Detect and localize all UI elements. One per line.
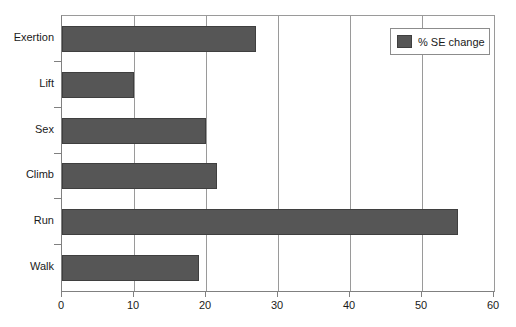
- legend-label: % SE change: [418, 36, 485, 48]
- x-axis-label-10: 10: [127, 299, 139, 311]
- y-axis-tick: [54, 61, 61, 62]
- x-axis-label-50: 50: [415, 299, 427, 311]
- bar-walk: [62, 255, 199, 281]
- gridline-30: [278, 16, 279, 291]
- x-axis: 0102030405060: [61, 291, 494, 321]
- gridline-10: [134, 16, 135, 291]
- x-axis-tick-50: [421, 291, 422, 297]
- x-axis-tick-30: [277, 291, 278, 297]
- y-axis-tick: [54, 198, 61, 199]
- x-axis-label-60: 60: [487, 299, 499, 311]
- y-axis-tick: [54, 244, 61, 245]
- bar-row: [62, 118, 494, 144]
- x-axis-tick-0: [61, 291, 62, 297]
- bar-row: [62, 255, 494, 281]
- x-axis-tick-20: [205, 291, 206, 297]
- bar-row: [62, 72, 494, 98]
- bar-sex: [62, 118, 206, 144]
- y-axis-labels: Exertion Lift Sex Climb Run Walk: [0, 15, 56, 290]
- y-axis-label-2: Sex: [35, 124, 54, 135]
- x-axis-label-0: 0: [58, 299, 64, 311]
- y-axis-tick: [54, 153, 61, 154]
- bar-exertion: [62, 26, 256, 52]
- y-axis-label-5: Walk: [30, 261, 54, 272]
- y-axis-label-4: Run: [34, 215, 54, 226]
- x-axis-label-30: 30: [271, 299, 283, 311]
- x-axis-tick-40: [349, 291, 350, 297]
- y-axis-label-3: Climb: [26, 169, 54, 180]
- x-axis-label-20: 20: [199, 299, 211, 311]
- x-axis-label-40: 40: [343, 299, 355, 311]
- y-axis-label-1: Lift: [39, 78, 54, 89]
- gridline-20: [206, 16, 207, 291]
- bar-row: [62, 163, 494, 189]
- bar-run: [62, 209, 458, 235]
- plot-area: [61, 15, 495, 292]
- bar-chart: Exertion Lift Sex Climb Run Walk 0102030…: [0, 0, 516, 327]
- y-axis-tick: [54, 107, 61, 108]
- x-axis-tick-10: [133, 291, 134, 297]
- bar-row: [62, 209, 494, 235]
- bar-lift: [62, 72, 134, 98]
- chart-legend: % SE change: [390, 28, 490, 55]
- gridline-60: [494, 16, 495, 291]
- x-axis-tick-60: [493, 291, 494, 297]
- gridline-50: [422, 16, 423, 291]
- y-axis-label-0: Exertion: [14, 32, 54, 43]
- gridline-40: [350, 16, 351, 291]
- bar-climb: [62, 163, 217, 189]
- legend-swatch-icon: [397, 35, 412, 48]
